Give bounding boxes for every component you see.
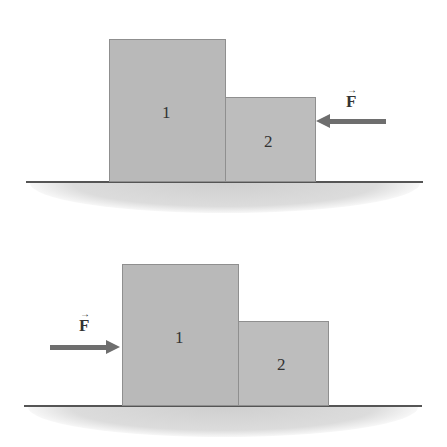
block-1-label: 1 xyxy=(162,103,171,123)
block-2: 2 xyxy=(225,97,316,182)
block-1-label: 1 xyxy=(175,328,184,348)
arrow-head-right-icon xyxy=(106,340,120,354)
force-label: → F xyxy=(79,316,89,336)
ground-surface xyxy=(28,407,418,437)
block-1: 1 xyxy=(109,39,226,182)
force-arrow xyxy=(328,119,386,124)
block-2-label: 2 xyxy=(264,132,273,152)
force-label: → F xyxy=(346,92,356,112)
force-arrow xyxy=(50,345,107,350)
vector-arrow-icon: → xyxy=(347,84,357,95)
ground-surface xyxy=(30,183,420,213)
vector-arrow-icon: → xyxy=(80,308,90,319)
block-2: 2 xyxy=(238,321,329,406)
block-1: 1 xyxy=(122,264,239,406)
block-2-label: 2 xyxy=(277,355,286,375)
arrow-head-left-icon xyxy=(316,114,330,128)
